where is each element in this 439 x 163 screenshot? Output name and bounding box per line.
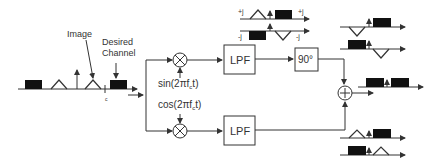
sin-lo-label: sin(2πfct) — [158, 78, 198, 90]
svg-text:LPF: LPF — [230, 125, 250, 137]
image-label: Image — [67, 29, 92, 39]
mixer-top — [173, 53, 187, 67]
summer — [338, 86, 352, 100]
receiver-diagram: c Image Desired Channel sin(2πfct) cos(2… — [0, 0, 439, 163]
svg-text:+j: +j — [238, 8, 244, 16]
image-triangle — [85, 80, 101, 89]
spectrum-minus-j: -j -j — [238, 24, 309, 41]
spectrum-bottom-right-2 — [340, 146, 405, 155]
phase-shifter-90: 90° — [295, 48, 318, 71]
svg-text:-j: -j — [296, 33, 300, 41]
output-spectrum — [358, 78, 423, 87]
spectrum-bottom-right-1 — [340, 129, 405, 138]
mixer-bottom — [173, 124, 187, 138]
channel-block-left — [25, 80, 42, 89]
cos-lo-label: cos(2πfct) — [158, 99, 201, 111]
spectrum-top-right-1 — [340, 18, 405, 36]
lpf-top: LPF — [224, 45, 255, 74]
channel-label: Channel — [102, 48, 136, 58]
desired-label: Desired — [102, 37, 133, 47]
svg-text:LPF: LPF — [230, 54, 250, 66]
desired-channel-block — [110, 80, 127, 89]
fc-label: c — [105, 96, 108, 102]
svg-text:-j: -j — [238, 33, 242, 41]
spectrum-plus-j: +j +j — [238, 8, 309, 19]
triangle-left — [51, 80, 67, 89]
svg-text:90°: 90° — [298, 54, 313, 65]
svg-text:+j: +j — [298, 8, 304, 16]
lpf-bottom: LPF — [224, 116, 255, 145]
spectrum-top-right-2 — [340, 40, 405, 58]
